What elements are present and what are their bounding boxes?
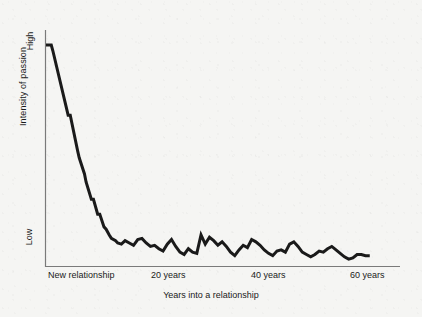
- x-axis-title: Years into a relationship: [0, 290, 422, 300]
- x-tick-20-years: 20 years: [151, 270, 186, 280]
- y-tick-high-label: High: [25, 32, 35, 51]
- y-axis-title: Intensity of passion: [18, 6, 28, 126]
- x-tick-40-years: 40 years: [251, 270, 286, 280]
- y-tick-low: Low: [21, 232, 41, 258]
- y-tick-low-label: Low: [24, 229, 34, 246]
- y-tick-high: High: [21, 36, 41, 66]
- x-tick-60-years: 60 years: [350, 270, 385, 280]
- x-tick-new-relationship: New relationship: [48, 270, 115, 280]
- chart-figure: Intensity of passion High Low New relati…: [0, 0, 422, 317]
- passion-intensity-line: [46, 45, 370, 259]
